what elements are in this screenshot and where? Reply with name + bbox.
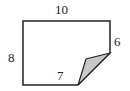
- label-top: 10: [55, 2, 68, 17]
- label-left: 8: [8, 50, 15, 65]
- folded-corner-flap: [78, 53, 110, 85]
- rectangle-outline: [23, 21, 110, 85]
- label-bottom: 7: [57, 68, 64, 83]
- folded-rectangle-diagram: 10 8 6 7: [0, 0, 130, 91]
- label-right: 6: [114, 34, 121, 49]
